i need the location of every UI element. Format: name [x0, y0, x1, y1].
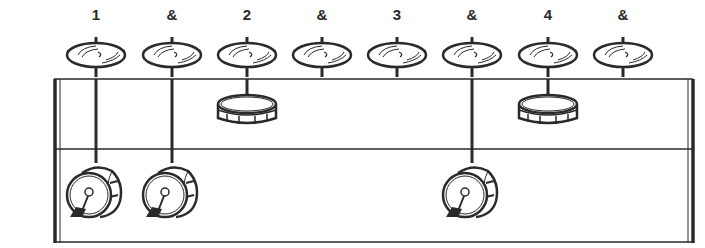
snare-drum-icon: [519, 95, 577, 124]
hihat-cymbal-icon: [519, 37, 577, 77]
hihat-cymbal-icon: [594, 37, 652, 77]
bass-drum-icon: [143, 167, 197, 217]
drum-grid: [0, 0, 705, 248]
hihat-cymbal-icon: [143, 37, 201, 77]
bass-drum-icon: [67, 167, 121, 217]
snare-drum-icon: [218, 95, 276, 124]
hihat-cymbal-icon: [67, 37, 125, 77]
bass-drum-icon: [443, 167, 497, 217]
hihat-cymbal-icon: [443, 37, 501, 77]
hihat-cymbal-icon: [368, 37, 426, 77]
hihat-cymbal-icon: [293, 37, 351, 77]
hihat-cymbal-icon: [218, 37, 276, 77]
